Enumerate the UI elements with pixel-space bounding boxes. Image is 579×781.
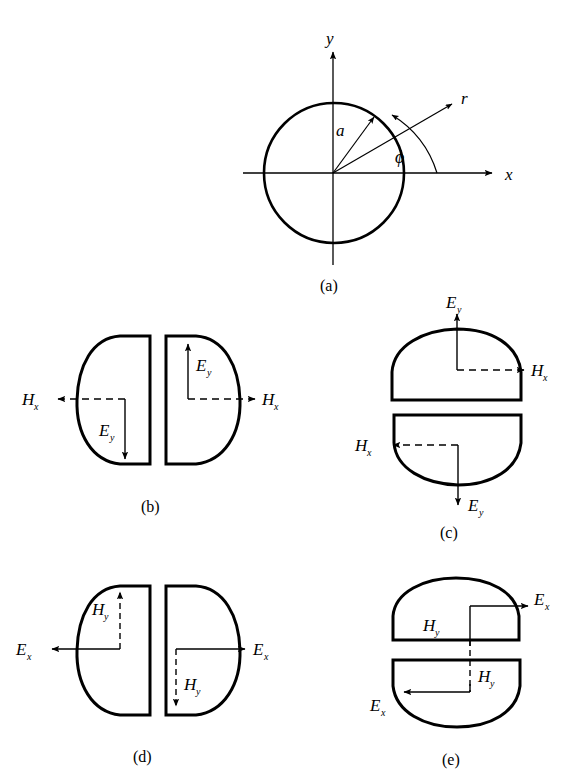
label-x-axis: x <box>504 165 513 184</box>
canvas-background <box>0 0 579 781</box>
svg-text:x: x <box>33 401 39 412</box>
svg-text:E: E <box>369 696 381 715</box>
caption-panel-e: (e) <box>442 751 460 769</box>
svg-text:x: x <box>542 372 548 383</box>
svg-text:y: y <box>195 686 201 697</box>
svg-text:x: x <box>263 651 269 662</box>
label-angle-phi: ϕ <box>395 147 404 167</box>
svg-text:x: x <box>26 651 32 662</box>
label-y-axis: y <box>324 29 334 48</box>
svg-text:x: x <box>273 401 279 412</box>
svg-text:x: x <box>380 707 386 718</box>
svg-text:y: y <box>103 611 109 622</box>
caption-panel-c: (c) <box>440 524 458 542</box>
svg-text:E: E <box>467 496 479 515</box>
svg-text:y: y <box>434 627 440 638</box>
svg-text:y: y <box>456 304 462 315</box>
svg-text:E: E <box>98 421 110 440</box>
label-radius-a: a <box>336 121 345 140</box>
svg-text:y: y <box>489 678 495 689</box>
svg-text:E: E <box>533 590 545 609</box>
svg-text:x: x <box>366 447 372 458</box>
figure-svg: y x a r ϕ (a) H x H x E y E <box>0 0 579 781</box>
svg-text:E: E <box>445 293 457 312</box>
svg-text:E: E <box>195 356 207 375</box>
svg-text:E: E <box>252 640 264 659</box>
svg-text:y: y <box>109 432 115 443</box>
svg-text:y: y <box>478 507 484 518</box>
svg-text:y: y <box>206 367 212 378</box>
svg-text:E: E <box>15 640 27 659</box>
caption-panel-b: (b) <box>141 498 160 516</box>
figure-root: y x a r ϕ (a) H x H x E y E <box>0 0 579 781</box>
label-radial-r: r <box>461 89 468 108</box>
svg-text:x: x <box>544 601 550 612</box>
caption-panel-a: (a) <box>320 277 338 295</box>
caption-panel-d: (d) <box>133 748 152 766</box>
